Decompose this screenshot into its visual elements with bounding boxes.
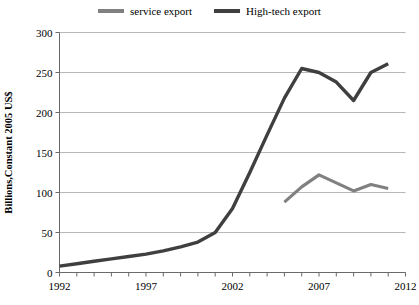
y-tick-label-100: 100 xyxy=(36,187,53,199)
y-tick-label-250: 250 xyxy=(36,67,53,79)
x-tick-label-2007: 2007 xyxy=(308,280,331,292)
x-tick-label-1992: 1992 xyxy=(49,280,71,292)
x-tick-label-1997: 1997 xyxy=(135,280,158,292)
series-line-service-export xyxy=(284,175,388,202)
line-chart: service export High-tech export Billions… xyxy=(0,0,419,305)
x-tick-label-2012: 2012 xyxy=(395,280,417,292)
y-tick-label-50: 50 xyxy=(42,227,54,239)
y-tick-label-150: 150 xyxy=(36,147,53,159)
series-line-high-tech-export xyxy=(60,64,389,266)
plot-area: 05010015020025030019921997200220072012 xyxy=(0,0,419,305)
y-tick-label-0: 0 xyxy=(47,267,53,279)
y-tick-label-200: 200 xyxy=(36,107,53,119)
y-tick-label-300: 300 xyxy=(36,27,53,39)
x-tick-label-2002: 2002 xyxy=(222,280,244,292)
